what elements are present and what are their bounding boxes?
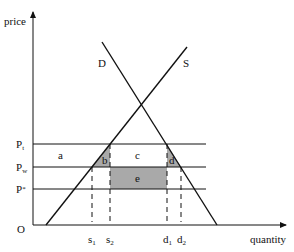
y-axis-label: price [4, 15, 26, 27]
quantity-label-s2: s2 [106, 233, 114, 247]
quantity-label-d2: d2 [177, 233, 187, 247]
region-e-label: e [135, 172, 140, 184]
x-axis-label: quantity [250, 233, 287, 245]
quantity-label-s1: s1 [88, 233, 96, 247]
region-a-label: a [58, 149, 63, 161]
price-label-pt: Pt [16, 138, 24, 152]
price-label-pstar: P* [16, 183, 26, 195]
supply-curve [46, 47, 187, 225]
price-label-pw: Pw [16, 161, 28, 175]
origin-label: O [17, 223, 25, 235]
region-c-label: c [135, 149, 140, 161]
region-b-label: b [102, 154, 108, 166]
tariff-diagram: price quantity O D S Pt Pw P* s1 s2 d1 d… [0, 0, 294, 252]
demand-label: D [98, 57, 106, 69]
quantity-label-d1: d1 [163, 233, 173, 247]
supply-label: S [183, 57, 189, 69]
region-d-label: d [169, 154, 175, 166]
